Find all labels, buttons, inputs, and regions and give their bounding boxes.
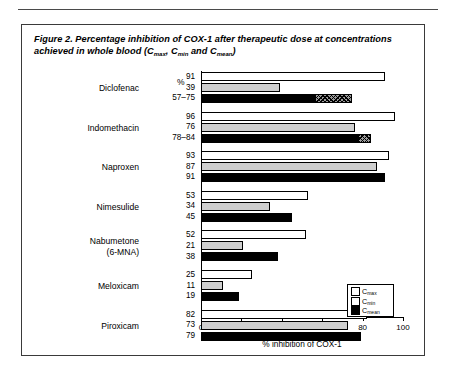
category-label: Diclofenac: [29, 83, 139, 93]
bar-cmin: [201, 321, 348, 330]
figure-title-cmax: C: [147, 46, 154, 56]
value-label-cmax: 53: [171, 191, 195, 202]
legend-swatch-cmin-icon: [351, 297, 360, 306]
bar-cmax: [201, 230, 306, 239]
chart-legend: Cmax Cmin Cmean: [347, 284, 394, 317]
value-column: 251119: [171, 270, 195, 302]
bar-cmean-range: [315, 94, 352, 103]
figure-title-cmean-sub: mean: [217, 51, 233, 57]
category-label: Nimesulide: [29, 202, 139, 212]
figure-title-cmin: C: [171, 46, 178, 56]
bar-cmin: [201, 162, 377, 171]
legend-label-cmax: Cmax: [362, 287, 377, 296]
value-label-cmean: 38: [171, 252, 195, 263]
bar-cmin: [201, 83, 280, 92]
figure-title-sep2: and: [188, 46, 210, 56]
value-column: 938791: [171, 151, 195, 183]
value-label-cmin: 39: [171, 83, 195, 94]
figure-title: Figure 2. Percentage inhibition of COX-1…: [34, 33, 414, 60]
category-label: Piroxicam: [29, 321, 139, 331]
value-label-cmean: 19: [171, 291, 195, 302]
legend-item-cmin: Cmin: [351, 296, 390, 305]
bar-cmean: [201, 252, 278, 261]
x-tick-100: [403, 317, 404, 321]
bar-cmax: [201, 112, 395, 121]
figure-title-cmean: C: [210, 46, 217, 56]
legend-label-cmean: Cmean: [362, 306, 380, 315]
legend-label-cmean-sub: mean: [367, 309, 380, 315]
figure-title-cmax-sub: max: [154, 51, 166, 57]
value-label-cmean: 91: [171, 172, 195, 183]
value-label-cmean: 57–75: [171, 93, 195, 104]
figure-title-cmin-sub: min: [178, 51, 189, 57]
bar-cmin: [201, 241, 243, 250]
bar-cmean: [201, 213, 292, 222]
bar-cmean: [201, 134, 359, 143]
legend-item-cmax: Cmax: [351, 287, 390, 296]
page-top-rule: [18, 9, 438, 10]
category-label-line2: (6-MNA): [29, 247, 139, 258]
legend-item-cmean: Cmean: [351, 306, 390, 315]
value-label-cmin: 34: [171, 201, 195, 212]
value-label-cmax: 82: [171, 310, 195, 321]
category-label: Naproxen: [29, 162, 139, 172]
bar-cmax: [201, 72, 385, 81]
value-label-cmax: 96: [171, 112, 195, 123]
bar-cmean-range: [358, 134, 371, 143]
legend-swatch-cmax-icon: [351, 287, 360, 296]
value-column: 967678–84: [171, 112, 195, 144]
bar-cmax: [201, 270, 252, 279]
value-label-cmean: 79: [171, 331, 195, 342]
figure-page: Figure 2. Percentage inhibition of COX-1…: [0, 0, 454, 392]
bar-cmax: [201, 191, 308, 200]
bar-cmean: [201, 173, 385, 182]
bar-cmean: [201, 332, 361, 341]
category-label: Nabumetone(6-MNA): [29, 236, 139, 257]
value-column: 827379: [171, 310, 195, 342]
figure-title-suffix: ): [232, 46, 235, 56]
figure-container: Figure 2. Percentage inhibition of COX-1…: [21, 24, 425, 356]
bar-cmin: [201, 281, 223, 290]
legend-label-cmax-sub: max: [367, 290, 376, 296]
legend-label-cmin-sub: min: [367, 300, 375, 306]
value-column: 533445: [171, 191, 195, 223]
value-label-cmin: 76: [171, 122, 195, 133]
value-column: 522138: [171, 230, 195, 262]
category-label: Meloxicam: [29, 281, 139, 291]
value-label-cmin: 73: [171, 320, 195, 331]
value-label-cmean: 45: [171, 212, 195, 223]
value-label-cmin: 11: [171, 281, 195, 292]
value-label-cmin: 87: [171, 162, 195, 173]
bar-cmean: [201, 292, 239, 301]
value-label-cmax: 52: [171, 230, 195, 241]
x-tick-label-100: 100: [390, 323, 416, 332]
bar-cmax: [201, 310, 367, 319]
value-label-cmax: 25: [171, 270, 195, 281]
value-label-cmin: 21: [171, 241, 195, 252]
value-label-cmax: 93: [171, 151, 195, 162]
bar-cmin: [201, 202, 270, 211]
bar-cmean: [201, 94, 316, 103]
value-label-cmax: 91: [171, 72, 195, 83]
value-label-cmean: 78–84: [171, 133, 195, 144]
bar-cmax: [201, 151, 389, 160]
bar-cmin: [201, 123, 355, 132]
category-label: Indomethacin: [29, 123, 139, 133]
legend-label-cmin: Cmin: [362, 297, 375, 306]
value-column: 913957–75: [171, 72, 195, 104]
legend-swatch-cmean-icon: [351, 306, 360, 315]
